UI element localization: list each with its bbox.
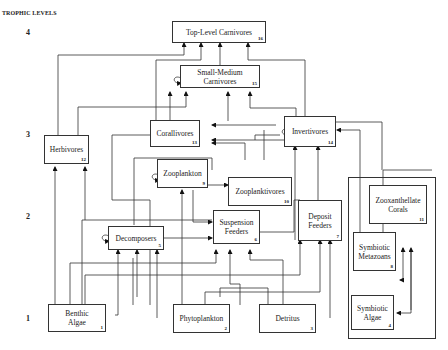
node-label: Symbiotic Algae xyxy=(355,304,391,322)
node-top-level-carnivores[interactable]: Top-Level Carnivores 16 xyxy=(172,21,266,43)
node-number: 16 xyxy=(258,36,263,42)
node-number: 15 xyxy=(252,81,257,87)
node-symbiotic-metazoans[interactable]: Symbiotic Metazoans 8 xyxy=(353,232,396,271)
node-label: Zooplanktivores xyxy=(235,187,284,196)
node-label: Symbiotic Metazoans xyxy=(357,243,393,261)
node-deposit-feeders[interactable]: Deposit Feeders 7 xyxy=(298,200,342,241)
node-label: Corallivores xyxy=(156,129,193,138)
node-number: 10 xyxy=(284,199,289,205)
node-number: 1 xyxy=(101,325,104,331)
node-symbiotic-algae[interactable]: Symbiotic Algae 4 xyxy=(351,295,394,330)
node-small-medium-carnivores[interactable]: Small-Medium Carnivores 15 xyxy=(180,65,260,88)
node-number: 2 xyxy=(225,326,228,332)
node-label: Decomposers xyxy=(116,234,157,243)
node-label: Zooxanthellate Corals xyxy=(373,196,423,214)
node-number: 5 xyxy=(159,243,162,249)
node-label: Phytoplankton xyxy=(180,314,224,323)
node-number: 14 xyxy=(328,140,333,146)
node-decomposers[interactable]: Decomposers 5 xyxy=(108,226,164,250)
node-number: 12 xyxy=(81,157,86,163)
node-label: Small-Medium Carnivores xyxy=(190,68,250,86)
node-suspension-feeders[interactable]: Suspension Feeders 6 xyxy=(213,210,260,244)
node-detritus[interactable]: Detritus 3 xyxy=(259,304,316,333)
node-number: 9 xyxy=(203,181,206,187)
node-number: 6 xyxy=(255,237,258,243)
node-label: Herbivores xyxy=(50,145,83,154)
node-benthic-algae[interactable]: Benthic Algae 1 xyxy=(48,304,106,332)
node-number: 3 xyxy=(311,326,314,332)
node-phytoplankton[interactable]: Phytoplankton 2 xyxy=(173,304,230,333)
node-number: 8 xyxy=(391,264,394,270)
node-number: 13 xyxy=(192,140,197,146)
node-number: 4 xyxy=(389,323,392,329)
node-label: Invertivores xyxy=(292,127,328,136)
node-zooplankton[interactable]: Zooplankton 9 xyxy=(157,159,208,188)
node-number: 7 xyxy=(337,234,340,240)
node-label: Detritus xyxy=(275,314,299,323)
node-label: Benthic Algae xyxy=(62,309,92,327)
node-label: Top-Level Carnivores xyxy=(186,28,252,37)
node-zooplanktivores[interactable]: Zooplanktivores 10 xyxy=(228,177,292,206)
node-label: Zooplankton xyxy=(163,169,201,178)
node-invertivores[interactable]: Invertivores 14 xyxy=(284,116,336,147)
node-label: Deposit Feeders xyxy=(303,212,337,230)
node-corallivores[interactable]: Corallivores 13 xyxy=(150,120,200,147)
node-number: 11 xyxy=(419,217,424,223)
node-label: Suspension Feeders xyxy=(217,218,257,236)
node-herbivores[interactable]: Herbivores 12 xyxy=(44,135,89,164)
node-zooxanthellate-corals[interactable]: Zooxanthellate Corals 11 xyxy=(369,185,427,224)
